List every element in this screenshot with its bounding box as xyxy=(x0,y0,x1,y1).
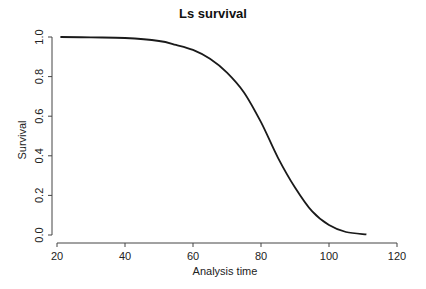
x-tick-label: 40 xyxy=(119,250,131,262)
y-tick-label: 0.0 xyxy=(33,227,45,242)
y-tick-label: 0.2 xyxy=(33,188,45,203)
y-axis-ticks: 0.00.20.40.60.81.0 xyxy=(33,29,52,242)
axes xyxy=(52,37,397,243)
y-tick-label: 1.0 xyxy=(33,29,45,44)
y-axis-label: Survival xyxy=(16,120,28,159)
x-tick-label: 80 xyxy=(255,250,267,262)
x-axis-ticks: 20406080100120 xyxy=(51,243,406,262)
y-tick-label: 0.4 xyxy=(33,148,45,163)
survival-chart: Ls survival 20406080100120 0.00.20.40.60… xyxy=(0,0,426,289)
survival-curve xyxy=(60,37,366,234)
x-tick-label: 20 xyxy=(51,250,63,262)
x-tick-label: 60 xyxy=(187,250,199,262)
x-tick-label: 100 xyxy=(320,250,338,262)
chart-title: Ls survival xyxy=(179,6,247,21)
y-tick-label: 0.6 xyxy=(33,109,45,124)
x-tick-label: 120 xyxy=(388,250,406,262)
y-tick-label: 0.8 xyxy=(33,69,45,84)
x-axis-label: Analysis time xyxy=(193,265,258,277)
